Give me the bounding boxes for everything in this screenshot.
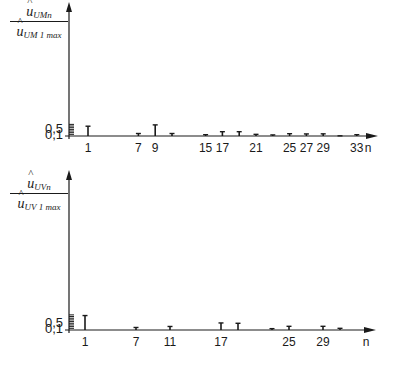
stem-bar-n1 — [83, 316, 88, 330]
x-tick-label: 7 — [135, 141, 142, 155]
y-label-denominator: u — [17, 24, 24, 40]
y-label-numerator-sub: UMn — [33, 10, 52, 20]
stem-bar-n19 — [237, 132, 242, 136]
x-tick-label: 17 — [214, 335, 228, 349]
x-tick-label: 29 — [317, 141, 331, 155]
x-axis-arrow-icon — [366, 133, 378, 139]
y-axis-label-top: uUMn uUM 1 max — [10, 4, 68, 40]
x-tick-label: 21 — [249, 141, 263, 155]
y-label-denominator-sub: UV 1 max — [25, 202, 61, 212]
y-tick-label: 0,5 — [45, 121, 63, 136]
y-label-denominator: u — [18, 196, 25, 212]
y-label-numerator-sub: UVn — [34, 182, 51, 192]
y-tick-label: 0,5 — [45, 315, 63, 330]
stem-bar-n1 — [86, 126, 91, 136]
y-label-denominator-sub: UM 1 max — [24, 30, 62, 40]
chart-top-umn-spectrum: uUMn uUM 1 max 0,10,517915172125272933n — [0, 0, 395, 170]
x-tick-label: 7 — [133, 335, 140, 349]
x-axis-label: n — [363, 335, 370, 349]
x-axis-arrow-icon — [364, 327, 376, 333]
x-tick-label: 25 — [282, 335, 296, 349]
chart-bottom-uvn-spectrum: uUVn uUV 1 max 0,10,51711172529n — [0, 170, 395, 369]
stem-bar-n9 — [153, 125, 158, 136]
x-axis-label: n — [365, 141, 372, 155]
stem-bar-n17 — [219, 323, 224, 330]
y-label-numerator: u — [26, 4, 33, 20]
x-tick-label: 33 — [350, 141, 364, 155]
x-tick-label: 29 — [316, 335, 330, 349]
x-tick-label: 27 — [300, 141, 314, 155]
stem-bar-n17 — [220, 132, 225, 136]
x-tick-label: 1 — [82, 335, 89, 349]
x-tick-label: 9 — [152, 141, 159, 155]
x-tick-label: 1 — [85, 141, 92, 155]
x-tick-label: 25 — [283, 141, 297, 155]
y-label-numerator: u — [27, 176, 34, 192]
y-axis-label-bottom: uUVn uUV 1 max — [10, 176, 68, 212]
x-tick-label: 15 — [199, 141, 213, 155]
stem-bar-n19 — [236, 323, 241, 330]
x-tick-label: 11 — [164, 335, 177, 349]
x-tick-label: 17 — [216, 141, 230, 155]
